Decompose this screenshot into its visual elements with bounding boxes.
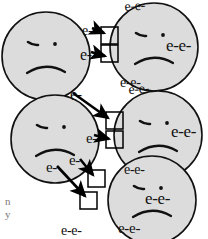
electron-label: e- (69, 152, 80, 168)
electron-label: e-e- (118, 220, 140, 236)
face-right-eye (62, 125, 66, 129)
diagram-canvas: e-e-e-e-e-e-e-e-e-e-e-e-e-e-e-e-e-e-e-e-… (0, 0, 208, 239)
transfer-arrow-2 (91, 52, 105, 56)
transfer-arrow-1 (92, 28, 104, 33)
face-right-eye (53, 42, 57, 46)
electron-label: e- (46, 159, 57, 175)
electron-label: e-e- (171, 122, 197, 141)
electron-label: e-e- (128, 80, 150, 96)
corner-note-line2: y (5, 208, 11, 220)
electron-label: e-e- (61, 223, 82, 238)
diagram-svg: e-e-e-e-e-e-e-e-e-e-e-e-e-e-e-e-e-e-e-e-… (0, 0, 208, 239)
electron-label: e-e- (124, 162, 145, 177)
electron-label: e-e- (145, 189, 171, 208)
electron-label: e- (86, 130, 97, 146)
face-right-eye (165, 121, 169, 125)
electron-label: e- (80, 46, 92, 63)
face-right-eye (161, 33, 165, 37)
electron-label: e- (82, 23, 93, 38)
electron-label: e-e- (124, 0, 146, 14)
corner-note-line1: n (5, 195, 11, 207)
electron-label: e-e- (166, 36, 192, 55)
